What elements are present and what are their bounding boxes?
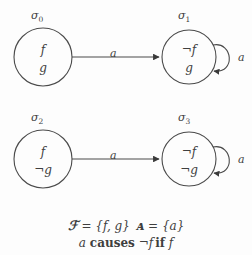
- state-fluent-sigma1-1: ¬f: [169, 44, 209, 56]
- state-fluent-sigma2-2: ¬g: [23, 164, 63, 176]
- state-circle-sigma3: [162, 132, 216, 186]
- transition-label-sigma2-sigma3: a: [110, 150, 117, 161]
- state-label-sigma3-base: σ: [178, 111, 186, 124]
- state-fluent-sigma0-2: g: [23, 62, 63, 74]
- transition-label-sigma0-sigma1: a: [110, 48, 117, 59]
- fluent-set-symbol: ℱ: [68, 218, 78, 233]
- state-label-sigma3-sub: 3: [186, 117, 191, 126]
- state-label-sigma0: σ0: [31, 10, 43, 24]
- state-fluent-sigma1-2: g: [169, 62, 209, 74]
- state-circle-sigma1: [162, 30, 216, 84]
- law-causes-keyword: causes: [90, 236, 135, 250]
- state-label-sigma2: σ2: [31, 112, 43, 126]
- state-label-sigma3: σ3: [178, 112, 190, 126]
- state-fluent-sigma0-1: f: [23, 44, 63, 56]
- state-fluent-sigma3-2: ¬g: [169, 164, 209, 176]
- state-circle-sigma0: [14, 28, 72, 86]
- law-if-keyword: if: [155, 236, 165, 250]
- law-condition: f: [169, 236, 173, 250]
- fluent-set-equation: = {f, g}: [78, 219, 130, 233]
- self-loop-label-sigma1: a: [238, 52, 245, 63]
- state-label-sigma1-base: σ: [178, 9, 186, 22]
- action-set-equation: = {a}: [144, 219, 184, 233]
- action-set-symbol: ᴀ: [136, 218, 144, 233]
- caption-causal-law: a causes ¬fif f: [0, 236, 252, 250]
- state-label-sigma1: σ1: [178, 10, 190, 24]
- state-label-sigma2-sub: 2: [39, 117, 44, 126]
- state-circle-sigma2: [14, 130, 72, 188]
- state-label-sigma1-sub: 1: [186, 15, 191, 24]
- law-action: a: [79, 236, 86, 250]
- state-label-sigma2-base: σ: [31, 111, 39, 124]
- state-label-sigma0-sub: 0: [39, 15, 44, 24]
- transition-system-figure: σ0 f g σ1 ¬f g σ2 f ¬g σ3 ¬f ¬g a a a a …: [0, 0, 252, 255]
- diagram-canvas: [0, 0, 252, 255]
- law-effect: ¬f: [139, 236, 154, 250]
- self-loop-label-sigma3: a: [238, 154, 245, 165]
- state-label-sigma0-base: σ: [31, 9, 39, 22]
- state-fluent-sigma2-1: f: [23, 146, 63, 158]
- state-fluent-sigma3-1: ¬f: [169, 146, 209, 158]
- caption-signature: ℱ = {f, g}ᴀ = {a}: [0, 218, 252, 233]
